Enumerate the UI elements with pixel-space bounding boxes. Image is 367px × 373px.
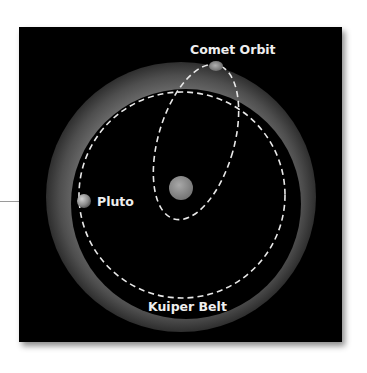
comet-orbit-label: Comet Orbit bbox=[190, 42, 276, 57]
sun-icon bbox=[169, 176, 193, 200]
comet-icon bbox=[209, 61, 223, 71]
kuiper-belt-diagram: Comet Orbit Pluto Kuiper Belt bbox=[0, 0, 367, 373]
kuiper-belt-label: Kuiper Belt bbox=[148, 299, 227, 314]
pluto-icon bbox=[77, 194, 91, 208]
pluto-label: Pluto bbox=[97, 194, 134, 209]
